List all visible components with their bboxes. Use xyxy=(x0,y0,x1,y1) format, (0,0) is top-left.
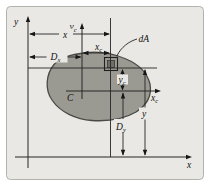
xc-axis-label-sub: c xyxy=(155,97,158,104)
dim-dx-label-base: D xyxy=(50,52,58,62)
dim-dy-label-sub: y xyxy=(122,126,126,133)
centroid-label: C xyxy=(67,93,74,103)
dim-dy-label-base: D xyxy=(115,122,123,132)
y-axis-label: y xyxy=(13,17,19,27)
dim-dx-label-sub: x xyxy=(56,56,60,63)
dim-yc-label-sub: c xyxy=(123,79,126,86)
da-inner-square xyxy=(108,61,115,68)
da-label: dA xyxy=(139,34,150,44)
dim-y-label: y xyxy=(141,109,147,119)
figure-stage: y x yc xc x Dx xc xyxy=(0,0,210,186)
yc-axis-label-sub: c xyxy=(74,26,77,33)
x-axis-label: x xyxy=(186,160,192,170)
parallel-axis-diagram: y x yc xc x Dx xc xyxy=(0,0,210,186)
dim-xc-label-sub: c xyxy=(99,46,102,53)
dim-x-label: x xyxy=(62,30,68,40)
